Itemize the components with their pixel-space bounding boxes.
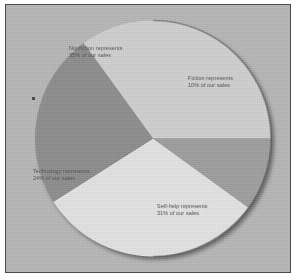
figure-canvas: Nonfiction represents 35% of our sales F… — [0, 0, 298, 280]
slice-label-selfhelp-line1: Self-help represents — [157, 203, 208, 209]
slice-label-fiction: Fiction represents 10% of our sales — [188, 75, 233, 89]
slice-label-fiction-line2: 10% of our sales — [188, 82, 233, 89]
slice-label-technology: Technology represents 24% of our sales — [33, 168, 90, 182]
slice-label-nonfiction-line1: Nonfiction represents — [69, 45, 122, 51]
slice-label-technology-line2: 24% of our sales — [33, 175, 90, 182]
slice-label-selfhelp: Self-help represents 31% of our sales — [157, 203, 208, 217]
slice-label-nonfiction: Nonfiction represents 35% of our sales — [69, 45, 122, 59]
slice-label-nonfiction-line2: 35% of our sales — [69, 52, 122, 59]
pie-chart — [6, 5, 290, 272]
slice-boundary-marker — [32, 97, 35, 100]
slice-label-technology-line1: Technology represents — [33, 168, 90, 174]
slice-label-fiction-line1: Fiction represents — [188, 75, 233, 81]
chart-frame: Nonfiction represents 35% of our sales F… — [5, 4, 291, 273]
slice-label-selfhelp-line2: 31% of our sales — [157, 210, 208, 217]
